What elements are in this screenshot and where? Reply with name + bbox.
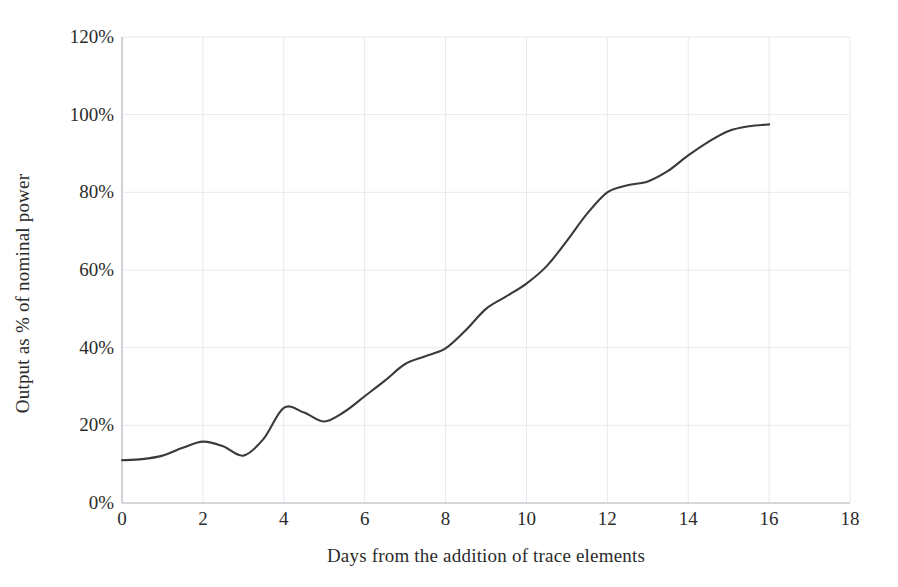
x-axis-tick-label: 14: [658, 508, 718, 530]
y-axis-tick-label: 80%: [46, 181, 114, 203]
y-axis-tick-label: 40%: [46, 337, 114, 359]
x-axis-tick-label: 18: [820, 508, 880, 530]
x-axis-tick-label: 8: [416, 508, 476, 530]
y-axis-tick-label: 100%: [46, 104, 114, 126]
chart-container: Output as % of nominal power Days from t…: [0, 0, 898, 587]
y-axis-tick-labels: 0%20%40%60%80%100%120%: [44, 0, 114, 587]
y-axis-tick-label: 60%: [46, 259, 114, 281]
y-axis-tick-label: 120%: [46, 26, 114, 48]
y-axis-title: Output as % of nominal power: [0, 0, 46, 587]
x-axis-tick-label: 12: [577, 508, 637, 530]
x-axis-tick-labels: 024681012141618: [0, 508, 898, 542]
x-axis-title: Days from the addition of trace elements: [122, 545, 850, 567]
chart-plot-area: [0, 0, 898, 587]
horizontal-gridlines: [122, 37, 850, 503]
x-axis-tick-label: 0: [92, 508, 152, 530]
x-axis-tick-label: 4: [254, 508, 314, 530]
y-axis-tick-label: 20%: [46, 414, 114, 436]
y-axis-title-label: Output as % of nominal power: [12, 174, 34, 413]
x-axis-tick-label: 16: [739, 508, 799, 530]
x-axis-tick-label: 2: [173, 508, 233, 530]
x-axis-title-label: Days from the addition of trace elements: [327, 545, 645, 566]
x-axis-tick-label: 10: [496, 508, 556, 530]
x-axis-tick-label: 6: [335, 508, 395, 530]
